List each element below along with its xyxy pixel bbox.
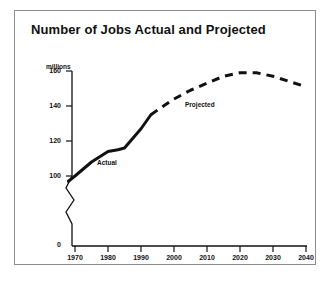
x-tick-label-2030: 2030 [258, 254, 288, 261]
x-tick-label-2010: 2010 [192, 254, 222, 261]
y-tick-label-140: 140 [39, 102, 61, 109]
series-annotation-projected: Projected [185, 101, 215, 108]
x-tick-label-1990: 1990 [126, 254, 156, 261]
x-tick-label-2020: 2020 [225, 254, 255, 261]
x-tick-label-2000: 2000 [159, 254, 189, 261]
series-line-projected [151, 73, 306, 115]
series-annotation-actual: Actual [97, 159, 117, 166]
y-axis-spine [66, 71, 74, 246]
y-tick-label-120: 120 [39, 137, 61, 144]
x-tick-label-2040: 2040 [291, 254, 321, 261]
x-axis-ticks [75, 246, 306, 252]
y-tick-label-0: 0 [39, 241, 61, 248]
chart-figure: Number of Jobs Actual and Projected [14, 10, 316, 265]
x-tick-label-1980: 1980 [93, 254, 123, 261]
series-line-actual [68, 115, 150, 182]
y-tick-label-100: 100 [39, 172, 61, 179]
x-tick-label-1970: 1970 [60, 254, 90, 261]
y-axis-ticks [66, 71, 72, 176]
y-tick-label-160: 160 [39, 67, 61, 74]
